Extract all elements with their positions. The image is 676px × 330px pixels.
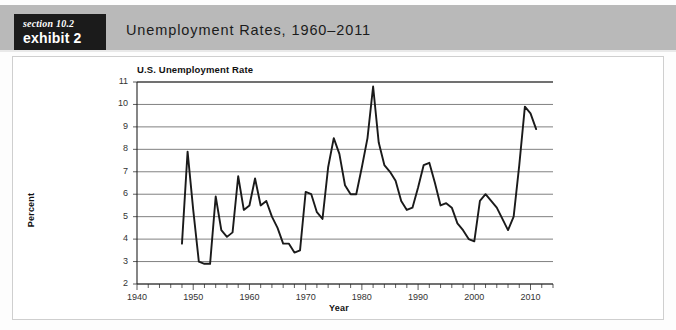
exhibit-title: Unemployment Rates, 1960–2011 xyxy=(126,22,371,38)
chart-title: U.S. Unemployment Rate xyxy=(137,64,253,75)
x-tick-label: 1940 xyxy=(117,292,157,302)
x-tick-label: 1960 xyxy=(229,292,269,302)
badge-section-label: section 10.2 xyxy=(23,18,106,30)
y-tick-label: 7 xyxy=(106,166,128,176)
x-tick-label: 1950 xyxy=(173,292,213,302)
x-tick-label: 1990 xyxy=(398,292,438,302)
x-tick-label: 1980 xyxy=(342,292,382,302)
exhibit-header-band: section 10.2 exhibit 2 Unemployment Rate… xyxy=(0,5,676,50)
figure-frame: U.S. Unemployment Rate Percent Year 2345… xyxy=(12,56,664,320)
x-tick-label: 2010 xyxy=(511,292,551,302)
x-axis-label: Year xyxy=(13,303,665,313)
y-axis-label: Percent xyxy=(26,180,36,240)
y-tick-label: 4 xyxy=(106,233,128,243)
exhibit-badge: section 10.2 exhibit 2 xyxy=(14,14,106,52)
badge-exhibit-label: exhibit 2 xyxy=(23,30,106,46)
x-tick-label: 2000 xyxy=(454,292,494,302)
y-tick-label: 9 xyxy=(106,121,128,131)
unemployment-rate-line xyxy=(182,86,536,263)
y-tick-label: 8 xyxy=(106,143,128,153)
y-tick-label: 2 xyxy=(106,278,128,288)
y-tick-label: 3 xyxy=(106,256,128,266)
y-tick-label: 6 xyxy=(106,188,128,198)
tick-marks xyxy=(133,82,553,290)
x-tick-label: 1970 xyxy=(286,292,326,302)
y-tick-label: 10 xyxy=(106,98,128,108)
y-tick-label: 11 xyxy=(106,76,128,86)
exhibit-page: section 10.2 exhibit 2 Unemployment Rate… xyxy=(0,0,676,330)
chart-area: U.S. Unemployment Rate Percent Year 2345… xyxy=(13,57,665,321)
y-tick-label: 5 xyxy=(106,211,128,221)
